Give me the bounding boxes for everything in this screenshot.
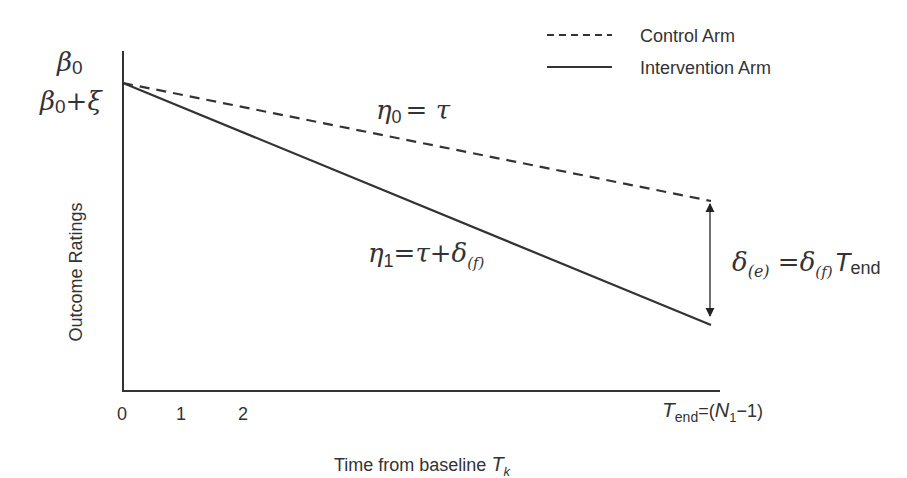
y-tick-beta0: β0 xyxy=(56,47,83,78)
legend: Control Arm Intervention Arm xyxy=(547,26,771,78)
legend-control-label: Control Arm xyxy=(640,26,735,46)
y-tick-beta0-xi: β0+ξ xyxy=(39,86,103,117)
x-tick-1: 1 xyxy=(176,404,186,424)
trial-diagram: Control Arm Intervention Arm β0 β0+ξ Out… xyxy=(0,0,907,478)
delta-e-label: δ(e) =δ(f)Tend xyxy=(732,247,881,281)
x-tick-0: 0 xyxy=(117,404,127,424)
y-axis-label: Outcome Ratings xyxy=(66,202,86,341)
x-axis-label: Time from baseline Tk xyxy=(334,453,512,478)
eta1-label: η1=τ+δ(f) xyxy=(368,238,485,272)
eta0-label: η0= τ xyxy=(376,95,451,127)
x-tick-end: Tend=(N1−1) xyxy=(662,398,763,425)
x-tick-2: 2 xyxy=(238,404,248,424)
legend-intervention-label: Intervention Arm xyxy=(640,58,771,78)
